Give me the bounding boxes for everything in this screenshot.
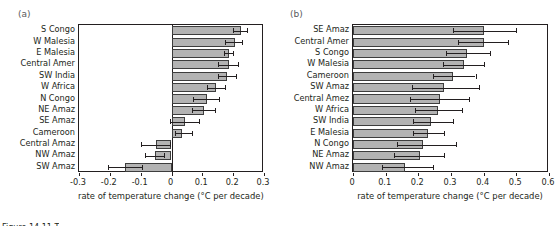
- error-bar-cap-low: [145, 153, 146, 158]
- x-tick-mark: [79, 173, 80, 176]
- error-bar: [192, 110, 215, 111]
- x-tick-label: -0.3: [63, 178, 93, 186]
- error-bar-cap-low: [443, 62, 444, 67]
- x-tick-mark: [233, 173, 234, 176]
- error-bar: [446, 53, 490, 54]
- category-label: SE Amaz: [277, 25, 349, 33]
- error-bar-cap-low: [207, 85, 208, 90]
- error-bar-cap-low: [412, 85, 413, 90]
- panel-b-bars: [353, 25, 547, 171]
- category-label: W Malesia: [3, 37, 75, 45]
- error-bar-cap-high: [233, 51, 234, 56]
- error-bar-cap-low: [458, 40, 459, 45]
- error-bar-cap-high: [508, 40, 509, 45]
- category-label: Central Amez: [277, 94, 349, 102]
- error-bar: [433, 76, 475, 77]
- category-label: SW India: [277, 116, 349, 124]
- category-label: N Congo: [277, 139, 349, 147]
- error-bar-cap-high: [469, 97, 470, 102]
- x-tick-label: 0.4: [468, 178, 498, 186]
- category-label: Cameroon: [3, 128, 75, 136]
- category-label: S Congo: [3, 25, 75, 33]
- error-bar: [394, 156, 445, 157]
- error-bar: [233, 31, 247, 32]
- x-tick-mark: [202, 173, 203, 176]
- x-tick-mark: [418, 173, 419, 176]
- error-bar: [413, 122, 452, 123]
- x-tick-label: 0.3: [248, 178, 278, 186]
- error-bar-cap-low: [397, 142, 398, 147]
- category-label: NE Amaz: [3, 105, 75, 113]
- error-bar: [175, 133, 192, 134]
- error-bar-cap-high: [170, 142, 171, 147]
- x-tick-label: 0.1: [186, 178, 216, 186]
- figure-caption-sliver: Figure 14.11 T: [2, 223, 59, 226]
- category-label: W Malesia: [277, 59, 349, 67]
- error-bar: [382, 167, 433, 168]
- error-bar-cap-low: [193, 97, 194, 102]
- panel-b-letter: (b): [290, 9, 303, 19]
- x-tick-mark: [110, 173, 111, 176]
- error-bar-cap-high: [199, 119, 200, 124]
- category-label: Cameroon: [277, 71, 349, 79]
- category-label: NW Amaz: [3, 150, 75, 158]
- error-bar: [458, 42, 509, 43]
- error-bar-cap-high: [247, 28, 248, 33]
- category-label: NW Amaz: [277, 162, 349, 170]
- x-tick-mark: [516, 173, 517, 176]
- error-bar-cap-high: [215, 108, 216, 113]
- category-label: N Congo: [3, 94, 75, 102]
- error-bar: [218, 76, 237, 77]
- x-tick-mark: [386, 173, 387, 176]
- panel-b-x-axis-title: rate of temperature change (°C per decad…: [352, 192, 548, 200]
- error-bar-cap-high: [433, 165, 434, 170]
- error-bar-cap-low: [446, 51, 447, 56]
- error-bar-cap-low: [141, 142, 142, 147]
- category-label: SW Amaz: [3, 162, 75, 170]
- error-bar: [410, 99, 469, 100]
- error-bar-cap-high: [236, 74, 237, 79]
- x-tick-mark: [141, 173, 142, 176]
- error-bar-cap-high: [484, 62, 485, 67]
- error-bar-cap-low: [175, 131, 176, 136]
- error-bar: [397, 145, 456, 146]
- error-bar-cap-high: [476, 74, 477, 79]
- x-tick-mark: [353, 173, 354, 176]
- error-bar-cap-high: [444, 131, 445, 136]
- error-bar: [224, 53, 233, 54]
- error-bar-cap-high: [462, 108, 463, 113]
- x-tick-mark: [264, 173, 265, 176]
- category-label: SE Amaz: [3, 116, 75, 124]
- x-tick-mark: [451, 173, 452, 176]
- error-bar: [145, 156, 164, 157]
- error-bar-cap-high: [479, 85, 480, 90]
- x-tick-label: 0.5: [500, 178, 530, 186]
- panel-a-bars: [79, 25, 262, 171]
- error-bar-cap-high: [516, 28, 517, 33]
- error-bar: [443, 65, 484, 66]
- error-bar-cap-low: [410, 97, 411, 102]
- x-tick-mark: [172, 173, 173, 176]
- category-label: Central Amer: [277, 37, 349, 45]
- error-bar-cap-high: [142, 165, 143, 170]
- figure-temperature-change: (a) S CongoW MalesiaE MalesiaCentral Ame…: [0, 0, 556, 226]
- x-tick-mark: [484, 173, 485, 176]
- x-tick-label: 0.3: [435, 178, 465, 186]
- panel-a-x-axis-title: rate of temperature change (°C per decad…: [78, 192, 263, 200]
- category-label: E Malesia: [3, 48, 75, 56]
- bar: [172, 26, 241, 35]
- error-bar-cap-low: [453, 28, 454, 33]
- error-bar-cap-high: [490, 51, 491, 56]
- error-bar: [225, 42, 242, 43]
- error-bar: [412, 88, 479, 89]
- error-bar-cap-low: [192, 108, 193, 113]
- error-bar-cap-low: [382, 165, 383, 170]
- error-bar: [193, 99, 219, 100]
- error-bar-cap-low: [224, 51, 225, 56]
- error-bar-cap-high: [242, 40, 243, 45]
- category-label: Central Amaz: [3, 139, 75, 147]
- panel-b: (b) SE AmazCentral AmerS CongoW MalesiaC…: [278, 0, 556, 226]
- panel-a-letter: (a): [18, 9, 31, 19]
- x-tick-label: 0.2: [402, 178, 432, 186]
- error-bar-cap-high: [192, 131, 193, 136]
